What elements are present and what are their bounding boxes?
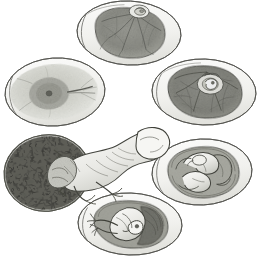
illustration-canvas [0, 0, 259, 261]
embryo-development-figure: Stages of embryonic development inside t… [0, 0, 259, 261]
embryo-head [136, 127, 170, 159]
